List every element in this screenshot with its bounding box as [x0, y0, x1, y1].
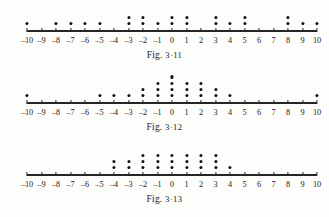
axis-tick-label: 2	[199, 36, 203, 45]
data-dot	[185, 88, 188, 91]
axis-tick	[70, 28, 71, 32]
axis-tick-label: –3	[125, 180, 133, 189]
dot-stack	[301, 22, 304, 28]
axis-tick-label: 10	[313, 108, 321, 117]
axis-tick-label: 6	[257, 36, 261, 45]
figure-3-12: –10–9–8–7–6–5–4–3–2–1012345678910 Fig. 3…	[0, 74, 329, 133]
axis-tick-label: –2	[139, 180, 147, 189]
data-dot	[214, 160, 217, 163]
axis-tick	[287, 28, 288, 32]
axis-tick	[287, 100, 288, 104]
dot-stack	[156, 82, 159, 101]
axis-tick-label: 5	[243, 108, 247, 117]
axis-tick-label: 4	[228, 108, 232, 117]
dot-stack	[228, 94, 231, 100]
axis-tick	[200, 28, 201, 32]
figure-3-11: –10–9–8–7–6–5–4–3–2–1012345678910 Fig. 3…	[0, 2, 329, 61]
dot-stack	[214, 16, 217, 29]
dot-stack	[185, 82, 188, 101]
data-dot	[141, 154, 144, 157]
axis-tick-label: –6	[81, 108, 89, 117]
axis-tick	[157, 172, 158, 176]
axis-tick-label: 7	[272, 108, 276, 117]
data-dot	[199, 88, 202, 91]
axis-tick-label: 8	[286, 36, 290, 45]
dot-stack	[112, 94, 115, 100]
dot-stack	[228, 166, 231, 172]
data-dot	[228, 166, 231, 169]
dot-stack	[286, 16, 289, 29]
axis-tick	[84, 28, 85, 32]
axis-tick-label: –6	[81, 180, 89, 189]
axis-tick-label: 5	[243, 180, 247, 189]
dot-stack	[243, 16, 246, 29]
dot-stack	[141, 16, 144, 29]
data-dot	[185, 22, 188, 25]
axis-tick	[113, 172, 114, 176]
figure-caption-3-13: Fig. 3·13	[0, 193, 329, 205]
axis-tick-label: 9	[301, 180, 305, 189]
axis-tick-label: 8	[286, 180, 290, 189]
axis-tick-label: –5	[96, 180, 104, 189]
dot-plot-3-12: –10–9–8–7–6–5–4–3–2–1012345678910	[0, 74, 329, 120]
data-dot	[185, 154, 188, 157]
axis-tick-label: –2	[139, 108, 147, 117]
axis-tick-label: 0	[170, 108, 174, 117]
axis-tick	[215, 100, 216, 104]
figure-3-13: –10–9–8–7–6–5–4–3–2–1012345678910 Fig. 3…	[0, 146, 329, 205]
axis-tick-label: –8	[52, 108, 60, 117]
data-dot	[185, 160, 188, 163]
data-dot	[214, 94, 217, 97]
data-dot	[156, 160, 159, 163]
data-dot	[112, 160, 115, 163]
dot-stack	[170, 154, 173, 173]
axis-tick	[171, 172, 172, 176]
dot-stack	[98, 22, 101, 28]
axis-tick	[258, 28, 259, 32]
axis-tick-label: –3	[125, 36, 133, 45]
axis-tick-label: 3	[214, 36, 218, 45]
axis-tick	[302, 28, 303, 32]
axis-tick	[41, 172, 42, 176]
data-dot	[301, 22, 304, 25]
data-dot	[141, 94, 144, 97]
axis-tick	[171, 100, 172, 104]
axis-tick	[229, 172, 230, 176]
dot-stack	[156, 154, 159, 173]
axis-tick	[157, 28, 158, 32]
axis-tick	[215, 28, 216, 32]
axis-tick	[55, 100, 56, 104]
axis-tick-label: 7	[272, 180, 276, 189]
axis-tick-label: 5	[243, 36, 247, 45]
data-dot	[199, 160, 202, 163]
data-dot	[127, 160, 130, 163]
data-dot	[112, 94, 115, 97]
axis-tick	[26, 28, 27, 32]
axis-tick	[128, 28, 129, 32]
data-dot	[141, 160, 144, 163]
data-dot	[170, 22, 173, 25]
data-dot	[98, 94, 101, 97]
data-dot	[112, 166, 115, 169]
axis-tick-label: 10	[313, 180, 321, 189]
dot-stack	[170, 75, 173, 100]
dot-plot-3-13: –10–9–8–7–6–5–4–3–2–1012345678910	[0, 146, 329, 192]
data-dot	[185, 94, 188, 97]
caption-number: 3·12	[165, 122, 182, 132]
axis-tick-label: –3	[125, 108, 133, 117]
dot-stack	[170, 16, 173, 29]
axis-tick	[244, 172, 245, 176]
data-dot	[199, 166, 202, 169]
axis-tick-label: –10	[21, 36, 33, 45]
data-dot	[156, 22, 159, 25]
axis-tick	[55, 28, 56, 32]
axis-tick-label: 3	[214, 108, 218, 117]
dot-stack	[98, 94, 101, 100]
axis-tick-label: 2	[199, 108, 203, 117]
axis-tick-label: –4	[110, 180, 118, 189]
axis-tick	[316, 100, 317, 104]
data-dot	[156, 88, 159, 91]
axis-tick	[128, 100, 129, 104]
data-dot	[156, 82, 159, 85]
dot-plot-3-11: –10–9–8–7–6–5–4–3–2–1012345678910	[0, 2, 329, 48]
